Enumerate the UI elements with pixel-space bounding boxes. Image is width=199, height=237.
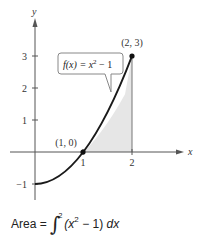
point-1-0 bbox=[80, 149, 85, 154]
x-tick-label-1: 1 bbox=[81, 157, 86, 168]
x-tick-label-2: 2 bbox=[130, 157, 135, 168]
x-axis-arrow-icon bbox=[176, 150, 184, 155]
y-tick-label-1: 1 bbox=[22, 115, 27, 126]
y-axis-label: y bbox=[31, 6, 37, 17]
integrand-open: (x bbox=[64, 217, 74, 231]
graph: 1 2 3 2 1 −1 x y (1, 0) (2, 3) f(x) = x2… bbox=[0, 0, 199, 205]
y-tick-label-3: 3 bbox=[22, 51, 27, 62]
callout-fx: f(x) = x bbox=[63, 59, 94, 71]
callout-label: f(x) = x2 − 1 bbox=[63, 58, 112, 71]
point-label-1-0: (1, 0) bbox=[55, 137, 77, 149]
callout-rest: − 1 bbox=[97, 59, 113, 70]
point-label-2-3: (2, 3) bbox=[121, 37, 143, 49]
point-2-3 bbox=[129, 53, 134, 58]
integrand-close: − 1) bbox=[79, 217, 107, 231]
integral-dx: dx bbox=[107, 217, 120, 231]
y-tick-label-neg1: −1 bbox=[16, 179, 27, 190]
y-tick-label-2: 2 bbox=[22, 83, 27, 94]
integrand-exponent: 2 bbox=[74, 215, 78, 224]
area-formula: Area = ∫2(x2 − 1) dx bbox=[11, 209, 119, 233]
integral-upper-limit: 2 bbox=[58, 212, 62, 219]
x-axis-label: x bbox=[187, 146, 193, 157]
area-prefix: Area = bbox=[11, 217, 50, 231]
y-axis-arrow-icon bbox=[33, 18, 38, 27]
